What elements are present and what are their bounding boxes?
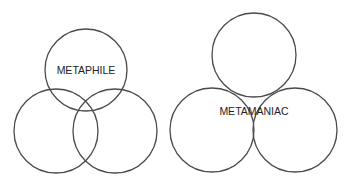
metamaniac-circle-bottom-right — [253, 88, 337, 172]
metamaniac-circle-bottom-left — [170, 88, 254, 172]
venn-diagrams-canvas: METAPHILE METAMANIAC — [0, 0, 349, 184]
metaphile-label: METAPHILE — [57, 64, 116, 76]
metaphile-circle-bottom-right — [73, 89, 157, 173]
metamaniac-circle-top — [212, 13, 296, 97]
metamaniac-label: METAMANIAC — [219, 105, 289, 117]
metaphile-diagram: METAPHILE — [14, 29, 157, 173]
metamaniac-diagram: METAMANIAC — [170, 13, 337, 172]
